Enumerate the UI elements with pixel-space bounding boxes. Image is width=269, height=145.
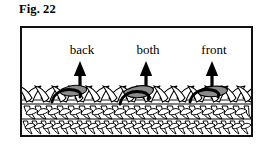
figure-caption: Fig. 22 [19, 2, 56, 17]
figure-container: Fig. 22 back both front [0, 0, 269, 145]
label-front: front [201, 42, 227, 57]
crochet-stitch-diagram: back both front [22, 28, 251, 135]
stitch-labels: back both front [70, 42, 227, 57]
label-back: back [70, 42, 95, 57]
figure-frame: back both front [20, 26, 253, 137]
label-both: both [136, 42, 160, 57]
